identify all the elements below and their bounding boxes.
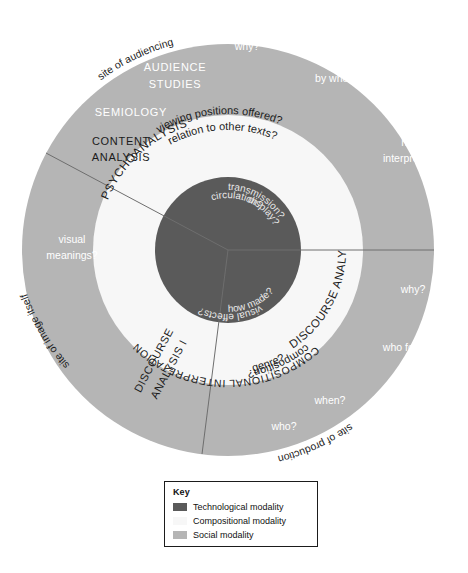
key-label-social: Social modality — [193, 530, 254, 540]
key-title: Key — [173, 487, 310, 497]
key-item-compositional: Compositional modality — [173, 514, 310, 527]
method-label-audience-line1: AUDIENCE — [144, 61, 206, 73]
question-interpreted-line2: interpreted? — [383, 152, 439, 164]
question-why-lower-right: why? — [400, 283, 426, 295]
question-why-top: why? — [234, 40, 260, 52]
question-visual-line1: visual — [59, 233, 86, 245]
question-who-for: who for? — [382, 341, 423, 353]
key-label-compositional: Compositional modality — [193, 516, 286, 526]
key-item-social: Social modality — [173, 528, 310, 541]
question-meanings-line2: meanings? — [46, 249, 98, 261]
question-how-line1: how — [401, 136, 421, 148]
question-who: who? — [270, 420, 296, 432]
key-swatch-compositional — [173, 517, 187, 525]
question-when: when? — [314, 394, 346, 406]
question-by-whom: by whom? — [315, 72, 363, 84]
method-label-semiology: SEMIOLOGY — [95, 106, 167, 118]
key-legend-box: Key Technological modality Compositional… — [164, 481, 318, 547]
key-swatch-technological — [173, 503, 187, 511]
key-item-technological: Technological modality — [173, 500, 310, 513]
key-swatch-social — [173, 531, 187, 539]
key-label-technological: Technological modality — [193, 502, 284, 512]
method-label-audience-line2: STUDIES — [149, 78, 202, 90]
